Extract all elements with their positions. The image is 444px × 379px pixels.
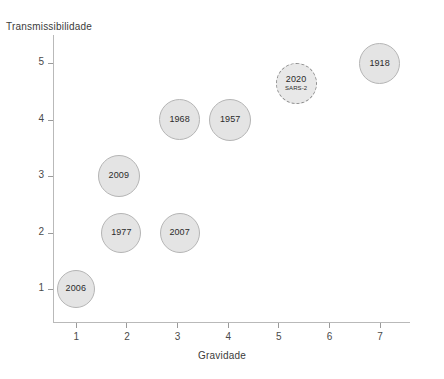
x-axis-tick-label: 3: [175, 331, 181, 342]
data-point-bubble[interactable]: 2009: [98, 155, 140, 197]
bubble-label: 1918: [369, 59, 389, 68]
x-axis-tick: 6: [329, 323, 330, 328]
y-axis-tick: 3: [48, 176, 53, 177]
y-axis-tick: 4: [48, 120, 53, 121]
bubble-chart: Transmissibilidade Gravidade 12345 12345…: [0, 0, 444, 379]
x-axis-tick: 4: [228, 323, 229, 328]
x-axis-tick: 7: [380, 323, 381, 328]
y-axis-tick: 5: [48, 63, 53, 64]
x-axis-tick-label: 7: [377, 331, 383, 342]
x-axis-tick-label: 4: [225, 331, 231, 342]
y-axis-tick-label: 1: [38, 282, 44, 293]
bubble-label: 1957: [220, 115, 240, 124]
data-point-bubble[interactable]: 1918: [359, 43, 400, 84]
y-axis-tick: 1: [48, 289, 53, 290]
data-point-bubble[interactable]: 2020SARS-2: [276, 63, 317, 104]
y-axis-tick-label: 5: [38, 56, 44, 67]
x-axis-line: [53, 322, 410, 323]
data-point-bubble[interactable]: 1957: [209, 99, 251, 141]
x-axis-tick-label: 5: [276, 331, 282, 342]
y-axis-tick-label: 3: [38, 169, 44, 180]
bubble-label: 1968: [169, 115, 189, 124]
x-axis-tick: 1: [76, 323, 77, 328]
y-axis-tick-label: 2: [38, 226, 44, 237]
x-axis-tick: 3: [177, 323, 178, 328]
x-axis-tick: 5: [278, 323, 279, 328]
x-axis-tick: 2: [126, 323, 127, 328]
bubble-sublabel: SARS-2: [285, 85, 307, 91]
data-point-bubble[interactable]: 1968: [159, 99, 200, 140]
plot-area: 12345 1234567 20062009197720071968195720…: [53, 35, 410, 323]
x-axis-title: Gravidade: [0, 350, 444, 361]
data-point-bubble[interactable]: 2006: [57, 270, 95, 308]
bubble-label: 2007: [169, 228, 189, 237]
data-point-bubble[interactable]: 1977: [101, 213, 141, 253]
data-point-bubble[interactable]: 2007: [160, 213, 200, 253]
bubble-label: 1977: [111, 228, 131, 237]
y-axis-tick-label: 4: [38, 113, 44, 124]
bubble-label: 2006: [66, 284, 86, 293]
x-axis-tick-label: 1: [74, 331, 80, 342]
x-axis-tick-label: 2: [124, 331, 130, 342]
y-axis-title: Transmissibilidade: [6, 21, 92, 32]
x-axis-tick-label: 6: [327, 331, 333, 342]
bubble-label: 2020: [286, 75, 306, 84]
bubble-label: 2009: [109, 171, 129, 180]
y-axis-tick: 2: [48, 233, 53, 234]
y-axis-line: [53, 35, 54, 323]
